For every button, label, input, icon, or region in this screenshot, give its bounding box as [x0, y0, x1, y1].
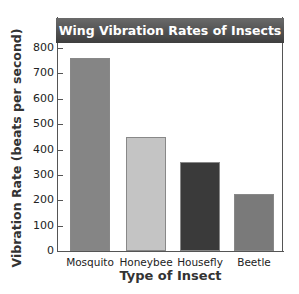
y-tick-label: 0	[24, 245, 54, 257]
bar-honeybee	[126, 137, 166, 251]
x-axis	[57, 251, 284, 252]
y-tick-label: 700	[24, 67, 54, 79]
y-tick-label: 100	[24, 220, 54, 232]
y-axis-title: Vibration Rate (beats per second)	[9, 28, 24, 267]
category-label: Housefly	[170, 256, 230, 268]
category-label: Honeybee	[116, 256, 176, 268]
y-tick-label: 400	[24, 144, 54, 156]
y-tick	[58, 226, 63, 227]
y-tick	[58, 175, 63, 176]
bar-mosquito	[70, 58, 110, 251]
category-label: Beetle	[224, 256, 284, 268]
y-tick	[58, 73, 63, 74]
y-tick-label: 300	[24, 169, 54, 181]
x-axis-title: Type of Insect	[57, 268, 284, 283]
bar-beetle	[234, 194, 274, 251]
y-tick-label: 800	[24, 42, 54, 54]
chart-title: Wing Vibration Rates of Insects	[56, 18, 284, 43]
bar-housefly	[180, 162, 220, 251]
y-tick-label: 200	[24, 194, 54, 206]
y-tick	[58, 124, 63, 125]
category-label: Mosquito	[60, 256, 120, 268]
y-tick	[58, 150, 63, 151]
y-tick-label: 500	[24, 118, 54, 130]
y-tick	[58, 251, 63, 252]
y-tick-label: 600	[24, 93, 54, 105]
y-tick	[58, 99, 63, 100]
y-tick	[58, 48, 63, 49]
y-tick	[58, 200, 63, 201]
